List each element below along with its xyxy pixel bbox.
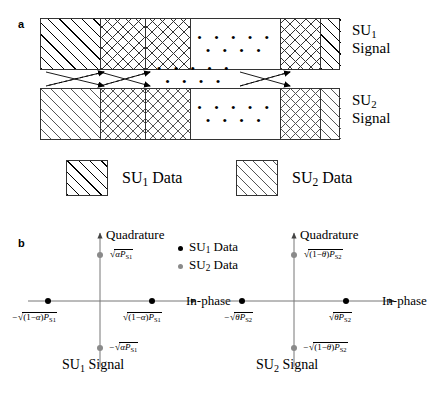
su2-label-inphase-positive: √θPS2 (328, 312, 352, 323)
legend-su2-tail: Data (318, 169, 352, 186)
legend-item-su1-data: SU1 Data (66, 160, 182, 196)
su1-axes (10, 215, 200, 380)
legend-su1-tail: Data (148, 169, 182, 186)
block-su2-data (41, 89, 101, 139)
panel-a-letter: a (18, 18, 24, 30)
su1-point-inphase-negative (45, 298, 51, 304)
su1-cap-tail: Signal (85, 357, 124, 372)
legend-swatch-su1 (66, 160, 108, 196)
su2-point-quadrature-positive (291, 252, 297, 258)
su2-point-inphase-negative (239, 298, 245, 304)
su2-cap-main: SU (256, 357, 274, 372)
su1-label-inphase-positive: √(1−α)PS1 (122, 312, 162, 323)
su1-constellation: Quadrature In-phase √αPS1 −√αPS1 −√(1−α)… (10, 215, 200, 380)
block-crosshatch (101, 19, 146, 69)
su2-point-inphase-positive (343, 298, 349, 304)
su2-label-line2: Signal (352, 110, 390, 126)
legend-label-su2: SU2 Data (292, 169, 352, 188)
su1-label-sub: 1 (371, 28, 376, 40)
panel-a: a • • • • • • • • • • • • • • • • • • (0, 0, 423, 150)
su1-cap-main: SU (62, 357, 80, 372)
su1-point-quadrature-negative (97, 345, 103, 351)
su1-label-quadrature-positive: √αPS1 (109, 249, 133, 260)
su1-constellation-caption: SU1 Signal (62, 357, 124, 374)
su2-label-sub: 2 (371, 98, 376, 110)
su2-quadrature-axis-label: Quadrature (300, 227, 358, 243)
su2-row-ellipsis: • • • • • • • • • (191, 101, 280, 127)
legend-label-su1: SU1 Data (122, 169, 182, 188)
su2-label-main: SU (352, 92, 371, 108)
block-legend: SU1 Data SU2 Data (0, 152, 423, 208)
block-su1-data (41, 19, 101, 69)
block-crosshatch (101, 89, 146, 139)
block-crosshatch (146, 89, 191, 139)
su2-constellation: Quadrature In-phase √(1−θ)PS2 −√(1−θ)PS2… (222, 215, 412, 380)
middle-ellipsis: • • • • • • • • • (150, 62, 240, 88)
middle-ellipsis-wrap: • • • • • • • • • (150, 62, 240, 88)
su1-quadrature-axis-label: Quadrature (106, 227, 164, 243)
su1-label-quadrature-negative: −√αPS1 (109, 342, 138, 353)
su1-label-main: SU (352, 22, 371, 38)
su2-cap-tail: Signal (279, 357, 318, 372)
su2-label-quadrature-positive: √(1−θ)PS2 (303, 249, 343, 260)
block-crosshatch (281, 89, 321, 139)
su1-label-line2: Signal (352, 40, 390, 56)
su1-label-inphase-negative: −√(1−α)PS1 (12, 312, 57, 323)
su2-constellation-caption: SU2 Signal (256, 357, 318, 374)
legend-item-su2-data: SU2 Data (236, 160, 352, 196)
su2-point-quadrature-negative (291, 345, 297, 351)
su1-row-ellipsis: • • • • • • • • • (191, 31, 280, 57)
block-su2-data (321, 89, 341, 139)
su2-inphase-axis-label: In-phase (382, 293, 427, 309)
su1-point-inphase-positive (149, 298, 155, 304)
legend-su1-main: SU (122, 169, 142, 186)
su1-signal-label: SU1 Signal (352, 22, 422, 57)
block-crosshatch (281, 19, 321, 69)
block-ellipsis: • • • • • • • • • (191, 89, 281, 139)
panel-b: b SU1 Data SU2 Data (0, 215, 423, 394)
legend-su2-main: SU (292, 169, 312, 186)
su2-signal-label: SU2 Signal (352, 92, 422, 127)
su2-label-quadrature-negative: −√(1−θ)PS2 (303, 342, 348, 353)
su2-label-inphase-negative: −√θPS2 (224, 312, 253, 323)
su2-signal-row: • • • • • • • • • (40, 88, 340, 140)
block-su1-data (321, 19, 341, 69)
legend-swatch-su2 (236, 160, 278, 196)
su1-point-quadrature-positive (97, 252, 103, 258)
